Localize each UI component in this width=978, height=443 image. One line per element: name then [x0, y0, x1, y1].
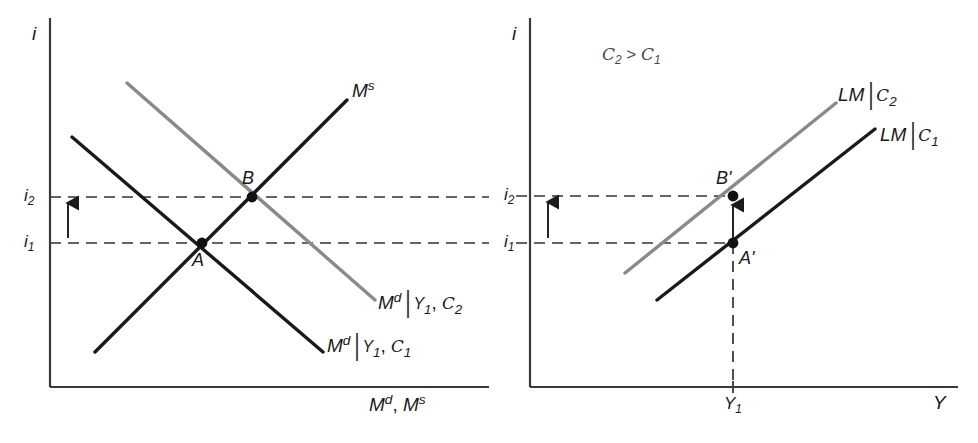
- left-panel-curves: [72, 83, 375, 352]
- left-tick-i2: i2: [24, 186, 34, 208]
- point-B-prime: [728, 191, 739, 202]
- figure-canvas: [0, 0, 978, 443]
- economics-figure: i i2 i1 Ms Md|Y1, C2 Md|Y1, C1 A B Md, M…: [0, 0, 978, 443]
- point-label-A: A: [192, 250, 204, 271]
- curve-label-ms: Ms: [352, 78, 375, 102]
- point-label-A-prime: A': [739, 248, 754, 269]
- right-x-axis-label: Y: [933, 392, 946, 414]
- left-tick-i1: i1: [24, 232, 34, 254]
- curve-lm-c1: [657, 129, 875, 300]
- right-panel-curves: [625, 103, 875, 300]
- left-y-axis-label: i: [32, 23, 36, 45]
- curve-label-lm-c1: LM|C1: [880, 124, 939, 149]
- point-A-prime: [728, 238, 739, 249]
- left-panel-dashed-guides: [50, 197, 489, 243]
- right-y-axis-label: i: [512, 23, 516, 45]
- right-tick-i2: i2: [504, 185, 514, 207]
- curve-md-c2: [127, 83, 375, 300]
- right-tick-i1: i1: [504, 232, 514, 254]
- right-x-tick-Y1: Y1: [724, 394, 742, 416]
- right-panel-axes: [530, 18, 958, 393]
- point-A: [197, 238, 208, 249]
- curve-label-md-c2: Md|Y1, C2: [378, 290, 462, 317]
- panel-note-c2-gt-c1: C2 > C1: [602, 44, 661, 67]
- point-label-B-prime: B': [716, 168, 731, 189]
- curve-ms: [95, 100, 347, 352]
- point-B: [247, 192, 258, 203]
- left-x-axis-label: Md, Ms: [369, 392, 426, 416]
- curve-label-lm-c2: LM|C2: [838, 84, 897, 109]
- curve-label-md-c1: Md|Y1, C1: [327, 333, 411, 360]
- point-label-B: B: [242, 168, 254, 189]
